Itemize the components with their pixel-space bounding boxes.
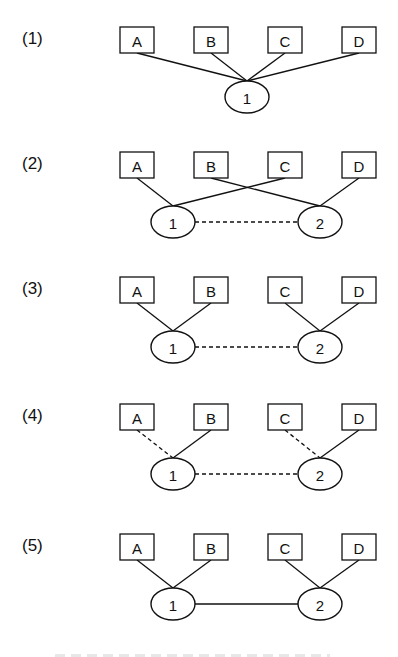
host-label: A: [132, 540, 142, 557]
edge-D-2: [320, 303, 359, 331]
host-label: D: [354, 410, 365, 427]
hub-label: 1: [169, 215, 177, 232]
host-label: C: [280, 410, 291, 427]
topology-diagram: (1)ABCD1(2)ABCD12(3)ABCD12(4)ABCD12(5)AB…: [0, 0, 398, 657]
hub-label: 2: [316, 597, 324, 614]
host-label: A: [132, 283, 142, 300]
host-label: C: [280, 33, 291, 50]
panel-label: (3): [22, 279, 43, 298]
panel-label: (1): [22, 29, 43, 48]
hub-label: 2: [316, 340, 324, 357]
edge-C-2: [285, 430, 320, 458]
host-label: C: [280, 283, 291, 300]
edge-C-2: [285, 560, 320, 588]
host-label: D: [354, 158, 365, 175]
edge-B-1: [173, 430, 211, 458]
edge-B-1: [173, 560, 211, 588]
edge-A-1: [137, 178, 173, 206]
panel-4: (4)ABCD12: [22, 404, 376, 490]
panel-1: (1)ABCD1: [22, 27, 376, 113]
edge-B-1: [173, 303, 211, 331]
edge-D-2: [320, 560, 359, 588]
panel-5: (5)ABCD12: [22, 534, 376, 620]
edge-D-2: [320, 178, 359, 206]
host-label: B: [206, 158, 216, 175]
hub-label: 1: [169, 340, 177, 357]
host-label: A: [132, 410, 142, 427]
host-label: C: [280, 540, 291, 557]
host-label: B: [206, 410, 216, 427]
host-label: D: [354, 283, 365, 300]
hub-label: 2: [316, 215, 324, 232]
panel-label: (4): [22, 406, 43, 425]
host-label: C: [280, 158, 291, 175]
hub-label: 1: [169, 597, 177, 614]
panel-label: (2): [22, 154, 43, 173]
panel-2: (2)ABCD12: [22, 152, 376, 238]
host-label: A: [132, 158, 142, 175]
hub-label: 1: [169, 467, 177, 484]
host-label: D: [354, 540, 365, 557]
host-label: B: [206, 540, 216, 557]
edge-A-1: [137, 303, 173, 331]
edge-D-1: [247, 53, 359, 81]
host-label: B: [206, 283, 216, 300]
host-label: A: [132, 33, 142, 50]
panel-3: (3)ABCD12: [22, 277, 376, 363]
panel-label: (5): [22, 536, 43, 555]
hub-label: 1: [243, 90, 251, 107]
edge-C-2: [285, 303, 320, 331]
host-label: D: [354, 33, 365, 50]
edge-A-1: [137, 430, 173, 458]
edge-D-2: [320, 430, 359, 458]
host-label: B: [206, 33, 216, 50]
edge-A-1: [137, 560, 173, 588]
edge-A-1: [137, 53, 247, 81]
hub-label: 2: [316, 467, 324, 484]
